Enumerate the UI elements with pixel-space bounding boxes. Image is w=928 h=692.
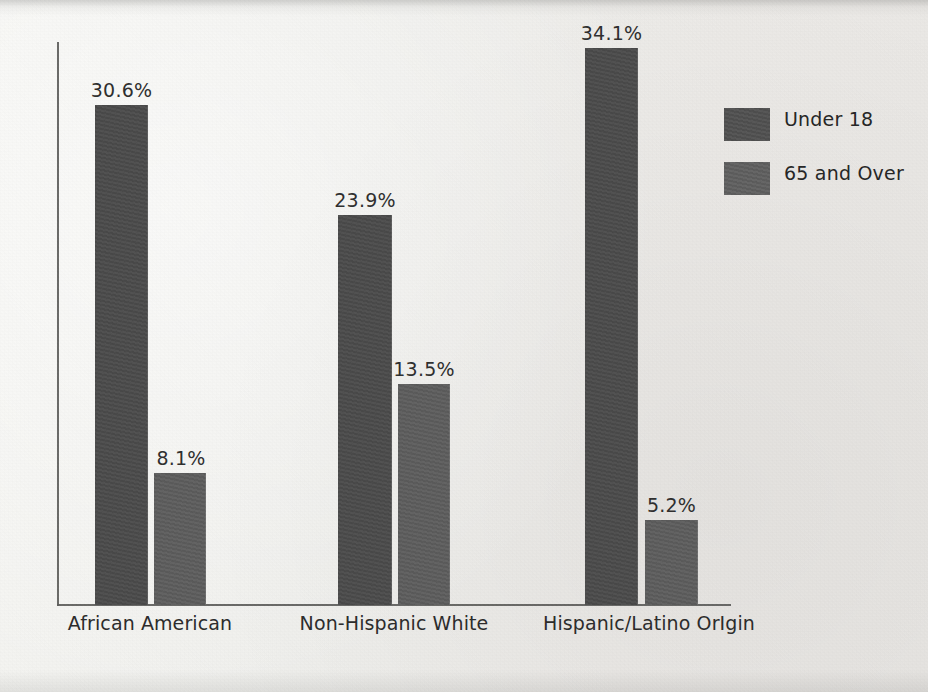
category-label-african-american: African American — [52, 612, 248, 634]
scanned-page: 30.6% 8.1% 23.9% 13.5% 34.1% 5.2% Africa… — [0, 0, 928, 692]
category-label-hispanic-latino-origin: Hispanic/Latino OrIgin — [543, 612, 743, 634]
legend-label-under-18: Under 18 — [784, 108, 873, 130]
legend-swatch-65-and-over-icon — [724, 162, 770, 195]
bar-label-65-and-over-non-hispanic-white: 13.5% — [378, 358, 470, 380]
bar-label-under-18-hispanic-latino-origin: 34.1% — [565, 22, 658, 44]
bar-under-18-hispanic-latino-origin — [585, 48, 638, 605]
bar-label-under-18-african-american: 30.6% — [75, 79, 168, 101]
legend-label-65-and-over: 65 and Over — [784, 162, 904, 184]
legend-swatch-under-18-icon — [724, 108, 770, 141]
bar-label-65-and-over-african-american: 8.1% — [136, 447, 226, 469]
bar-65-and-over-african-american — [154, 473, 206, 605]
bar-65-and-over-hispanic-latino-origin — [645, 520, 698, 605]
bar-under-18-non-hispanic-white — [338, 215, 392, 605]
bar-label-65-and-over-hispanic-latino-origin: 5.2% — [626, 494, 717, 516]
bar-under-18-african-american — [95, 105, 148, 605]
category-label-non-hispanic-white: Non-Hispanic White — [296, 612, 492, 634]
value-axis-line — [57, 42, 59, 606]
bar-label-under-18-non-hispanic-white: 23.9% — [318, 189, 412, 211]
bar-65-and-over-non-hispanic-white — [398, 384, 450, 605]
bar-chart-plot-area: 30.6% 8.1% 23.9% 13.5% 34.1% 5.2% Africa… — [0, 0, 928, 692]
